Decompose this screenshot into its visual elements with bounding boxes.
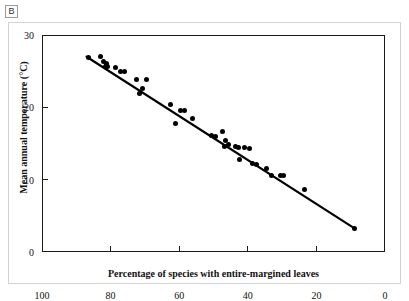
data-point <box>86 55 91 60</box>
x-axis-title: Percentage of species with entire-margin… <box>42 268 385 279</box>
data-point <box>254 162 259 167</box>
data-point <box>237 157 242 162</box>
x-tick-mark <box>110 246 111 252</box>
x-tick-label: 100 <box>35 290 50 301</box>
data-point <box>352 226 357 231</box>
y-tick-label: 0 <box>10 247 34 258</box>
y-tick-label: 30 <box>10 30 34 41</box>
x-tick-label: 20 <box>311 290 321 301</box>
x-tick-mark <box>316 246 317 252</box>
x-tick-label: 80 <box>106 290 116 301</box>
data-point <box>140 86 145 91</box>
x-tick-label: 40 <box>243 290 253 301</box>
plot-area: 100806040200 0102030 <box>42 35 385 252</box>
trendline <box>42 35 385 252</box>
x-tick-label: 60 <box>174 290 184 301</box>
y-axis-title: Mean annual temperature (°C) <box>18 43 29 213</box>
x-tick-mark <box>247 246 248 252</box>
x-tick-label: 0 <box>383 290 388 301</box>
x-tick-mark <box>179 246 180 252</box>
y-tick-mark <box>42 179 48 180</box>
panel-label: B <box>5 5 18 18</box>
data-point <box>122 69 127 74</box>
y-tick-mark <box>42 107 48 108</box>
